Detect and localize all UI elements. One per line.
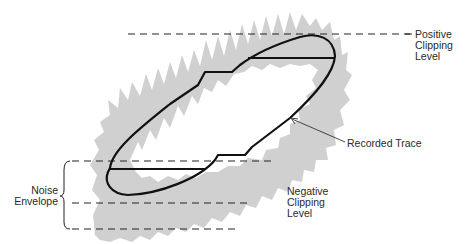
- noise-envelope-label-line2: Envelope: [6, 196, 58, 207]
- negative-clipping-label-line3: Level: [287, 208, 328, 219]
- positive-clipping-label-line3: Level: [415, 51, 453, 62]
- noise-envelope-brace: [60, 161, 70, 229]
- negative-clipping-label: Negative Clipping Level: [287, 186, 328, 219]
- positive-clipping-label: Positive Clipping Level: [415, 29, 453, 62]
- recorded-trace-label: Recorded Trace: [347, 138, 422, 149]
- clipping-diagram: [0, 0, 472, 244]
- noise-envelope-label: Noise Envelope: [6, 185, 58, 207]
